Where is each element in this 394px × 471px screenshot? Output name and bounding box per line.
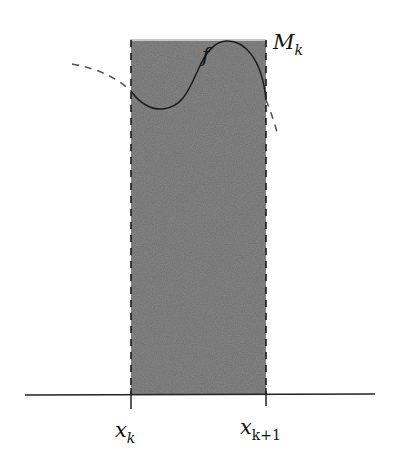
upper-sum-rectangle xyxy=(131,40,266,395)
x-k-plus-1-label: xk+1 xyxy=(240,415,281,443)
x-k-label: xk xyxy=(115,418,135,446)
sup-label: Mk xyxy=(272,30,303,58)
riemann-sum-diagram: f Mk xk xk+1 xyxy=(0,0,394,471)
x-axis xyxy=(25,394,375,395)
function-curve-right-dashed xyxy=(266,100,278,136)
function-curve-left-dashed xyxy=(72,64,131,91)
